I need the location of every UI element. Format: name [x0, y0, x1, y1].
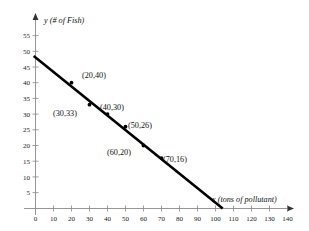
y-axis-label: y (# of Fish)	[43, 16, 85, 25]
x-tick-label: 140	[282, 215, 293, 223]
x-tick-label: 20	[68, 215, 76, 223]
y-tick-label: 10	[23, 174, 31, 182]
trend-line	[34, 56, 223, 208]
y-tick-labels: 5 10 15 20 25 30 35 40 45 50 55	[23, 32, 31, 197]
y-tick-label: 30	[23, 111, 31, 119]
y-axis-arrowhead	[33, 13, 39, 20]
x-tick-label: 100	[210, 215, 221, 223]
y-tick-label: 35	[23, 95, 31, 103]
x-tick-label: 10	[50, 215, 58, 223]
point-label-50-26: (50,26)	[128, 121, 152, 130]
x-axis-arrowhead	[287, 206, 294, 212]
point-label-70-16: (70,16)	[163, 155, 187, 164]
x-tick-label: 30	[86, 215, 94, 223]
point-label-40-30: (40,30)	[100, 103, 124, 112]
data-point[interactable]	[142, 144, 146, 148]
point-label-60-20: (60,20)	[107, 148, 131, 157]
x-tick-label: 110	[228, 215, 239, 223]
data-point[interactable]	[88, 103, 92, 107]
x-tick-label: 70	[158, 215, 166, 223]
y-tick-label: 25	[23, 126, 31, 134]
x-tick-label: 40	[104, 215, 112, 223]
y-tick-label: 55	[23, 32, 31, 40]
x-tick-label: 50	[122, 215, 130, 223]
point-annotations: (20,40) (30,33) (40,30) (50,26) (60,20) …	[53, 71, 187, 164]
x-tick-label: 130	[264, 215, 275, 223]
x-tick-label: 80	[176, 215, 184, 223]
x-tick-label: 0	[34, 215, 38, 223]
x-tick-label: 90	[194, 215, 202, 223]
chart-page: 0 10 20 30 40 50 60 70 80 90 100 110 120…	[0, 0, 309, 231]
data-point[interactable]	[106, 112, 110, 116]
point-label-30-33: (30,33)	[53, 109, 77, 118]
y-tick-label: 15	[23, 158, 31, 166]
y-tick-label: 20	[23, 142, 31, 150]
y-tick-label: 40	[23, 79, 31, 87]
data-point[interactable]	[70, 81, 74, 85]
y-tick-label: 50	[23, 48, 31, 56]
x-tick-label: 120	[246, 215, 257, 223]
y-tick-label: 5	[27, 189, 31, 197]
x-tick-labels: 0 10 20 30 40 50 60 70 80 90 100 110 120…	[34, 215, 294, 223]
x-axis-label: x (tons of pollutant)	[211, 195, 277, 204]
data-point[interactable]	[124, 125, 128, 129]
y-tick-label: 45	[23, 64, 31, 72]
scatter-plot: 0 10 20 30 40 50 60 70 80 90 100 110 120…	[0, 0, 309, 231]
x-tick-label: 60	[140, 215, 148, 223]
point-label-20-40: (20,40)	[82, 71, 106, 80]
